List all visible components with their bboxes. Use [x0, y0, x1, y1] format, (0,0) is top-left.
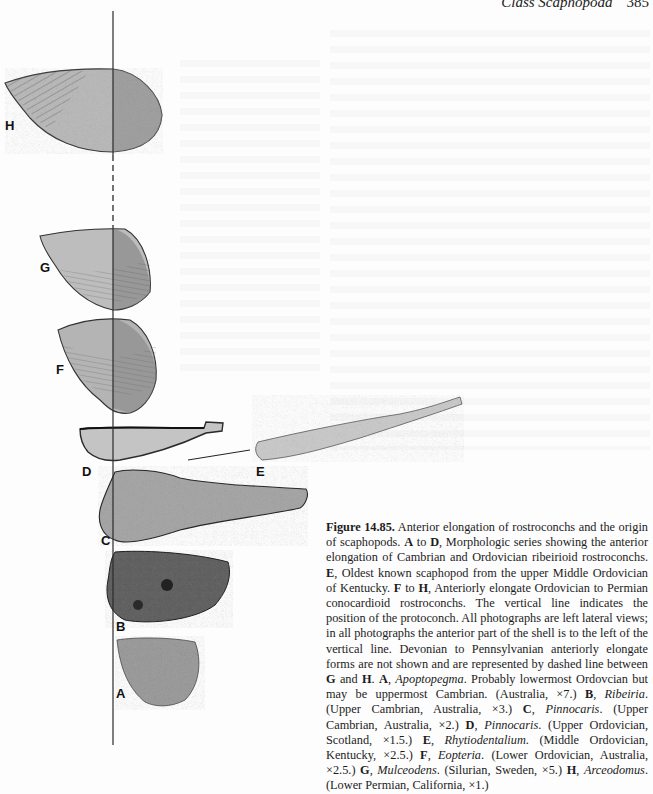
specimen-c-pinnocaris — [98, 466, 308, 546]
caption-label: G — [326, 672, 336, 686]
caption-text: and — [336, 672, 362, 686]
panel-label-c: C — [101, 533, 110, 548]
panel-label-d: D — [82, 464, 91, 479]
panel-label-b: B — [116, 619, 125, 634]
figure-caption: Figure 14.85. Anterior elongation of ros… — [326, 520, 648, 794]
caption-label: A — [404, 535, 413, 549]
caption-label: D — [430, 535, 439, 549]
panel-label-e: E — [256, 464, 265, 479]
specimen-f-eopteria — [58, 318, 156, 413]
panel-label-a: A — [116, 686, 125, 701]
caption-label: H — [418, 581, 428, 595]
caption-text: to — [401, 581, 418, 595]
panel-label-g: G — [40, 260, 50, 275]
specimen-h-arceodomus — [5, 68, 163, 154]
caption-text: to — [413, 535, 430, 549]
specimen-d-pinnocaris — [80, 422, 223, 461]
specimen-e-rhytiodentalium — [252, 395, 464, 462]
taxon-g: G, Mulceodens. (Silurian, Sweden, ×5.) — [360, 763, 567, 777]
panel-label-f: F — [56, 362, 64, 377]
caption-text: . — [372, 672, 379, 686]
specimen-b-ribeiria — [105, 550, 233, 628]
specimen-a-apoptopegma — [115, 636, 205, 710]
specimen-g-mulceodens — [40, 229, 150, 310]
leader-line-e — [188, 450, 250, 460]
figure-number: Figure 14.85. — [326, 520, 395, 534]
caption-label: H — [362, 672, 372, 686]
panel-label-h: H — [5, 118, 14, 133]
caption-label: E — [326, 566, 334, 580]
